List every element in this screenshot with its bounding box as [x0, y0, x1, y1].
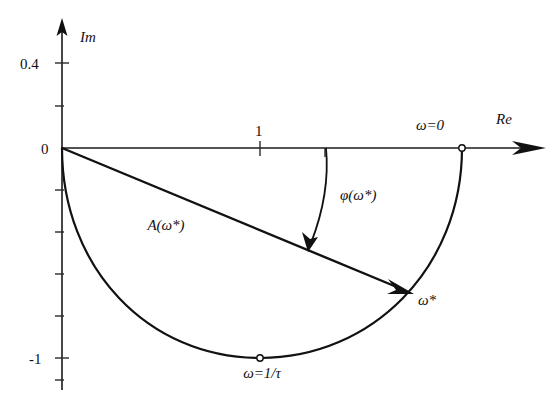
- amplitude-vector-label: A(ω*): [146, 217, 184, 234]
- omega-tau-marker: [257, 355, 263, 361]
- phase-arc-curve: [311, 148, 327, 243]
- amplitude-vector-arrowhead: [387, 279, 414, 294]
- omega-star-label: ω*: [418, 292, 437, 308]
- y-tick-label-0.4: 0.4: [20, 56, 39, 72]
- imaginary-axis: [57, 18, 68, 390]
- y-tick-label-0: 0: [41, 141, 49, 157]
- nyquist-diagram: 0.4 0 -1 1 Im Re ω=0 ω* ω=1/τ A(ω*) φ(ω*…: [0, 0, 549, 398]
- amplitude-vector: [62, 148, 414, 294]
- omega-zero-marker: [459, 145, 465, 151]
- amplitude-vector-line: [62, 148, 404, 290]
- imaginary-axis-label: Im: [79, 29, 96, 45]
- phase-arc: [302, 148, 327, 252]
- plot-canvas: 0.4 0 -1 1 Im Re ω=0 ω* ω=1/τ A(ω*) φ(ω*…: [0, 0, 549, 398]
- real-axis: [62, 141, 546, 155]
- real-axis-label: Re: [495, 111, 512, 127]
- omega-tau-label: ω=1/τ: [243, 365, 281, 381]
- nyquist-locus-curve: [62, 148, 462, 358]
- omega-zero-label: ω=0: [416, 117, 445, 133]
- x-tick-label-1: 1: [255, 123, 263, 139]
- x-axis-ticks: [260, 141, 325, 157]
- phase-arc-label: φ(ω*): [340, 187, 376, 204]
- y-tick-label-minus-1: -1: [29, 351, 42, 367]
